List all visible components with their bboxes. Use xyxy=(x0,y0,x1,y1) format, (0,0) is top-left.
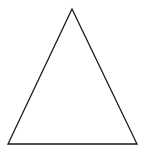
triangle-shape xyxy=(8,9,137,144)
diagram-canvas xyxy=(0,0,145,153)
